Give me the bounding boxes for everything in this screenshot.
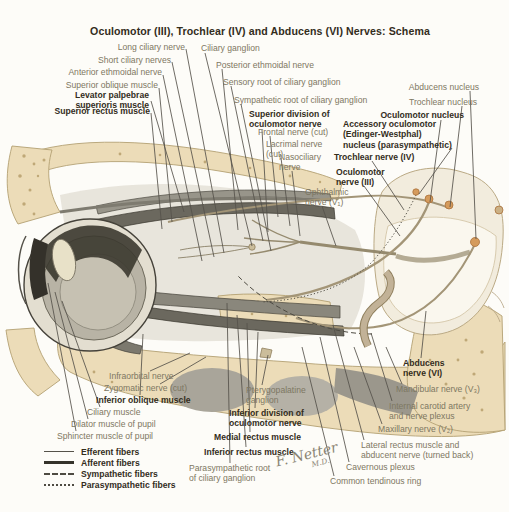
fiber-legend: Efferent fibers Afferent fibers Sympathe… — [44, 446, 176, 490]
label-lateral-rectus: Lateral rectus muscle and abducent nerve… — [361, 440, 473, 461]
label-infraorbital-nerve: Infraorbital nerve — [109, 371, 174, 381]
label-anterior-ethmoidal-nerve: Anterior ethmoidal nerve — [68, 67, 162, 77]
label-superior-rectus-muscle: Superior rectus muscle — [54, 106, 150, 116]
label-sympathetic-root: Sympathetic root of ciliary ganglion — [234, 95, 367, 105]
label-frontal-nerve: Frontal nerve (cut) — [258, 127, 328, 137]
legend-row-efferent: Efferent fibers — [44, 446, 176, 457]
sympathetic-line-swatch — [44, 473, 74, 475]
label-posterior-ethmoidal-nerve: Posterior ethmoidal nerve — [216, 60, 314, 70]
label-oculomotor-nerve: Oculomotor nerve (III) — [336, 167, 385, 188]
legend-label-efferent: Efferent fibers — [81, 447, 139, 457]
trochlear-nucleus-dot — [445, 201, 453, 209]
legend-label-afferent: Afferent fibers — [81, 458, 140, 468]
page-title: Oculomotor (III), Trochlear (IV) and Abd… — [30, 25, 490, 37]
label-abducens-nerve: Abducens nerve (VI) — [403, 358, 445, 379]
label-medial-rectus-muscle: Medial rectus muscle — [214, 432, 301, 442]
label-short-ciliary-nerves: Short ciliary nerves — [98, 55, 171, 65]
label-ophthalmic-nerve: Ophthalmic nerve (V₁) — [305, 187, 348, 208]
afferent-line-swatch — [44, 461, 74, 464]
oculomotor-nucleus-dot — [425, 195, 433, 203]
label-ciliary-muscle: Ciliary muscle — [87, 407, 140, 417]
legend-row-sympathetic: Sympathetic fibers — [44, 468, 176, 479]
legend-row-parasympathetic: Parasympathetic fibers — [44, 479, 176, 490]
label-superior-oblique-muscle: Superior oblique muscle — [66, 80, 158, 90]
label-long-ciliary-nerve: Long ciliary nerve — [118, 42, 185, 52]
label-maxillary-nerve: Maxillary nerve (V₂) — [378, 424, 453, 434]
parasympathetic-line-swatch — [44, 484, 74, 486]
label-sphincter-muscle: Sphincter muscle of pupil — [57, 431, 153, 441]
label-mandibular-nerve: Mandibular nerve (V₃) — [396, 384, 480, 394]
abducens-nucleus-dot — [471, 238, 480, 247]
mesencephalic-dot — [495, 206, 503, 214]
label-sensory-root: Sensory root of ciliary ganglion — [223, 77, 341, 87]
label-cavernous-plexus: Cavernous plexus — [346, 462, 415, 472]
label-trochlear-nerve: Trochlear nerve (IV) — [334, 152, 414, 162]
label-inferior-oblique-muscle: Inferior oblique muscle — [96, 395, 191, 405]
pterygopalatine-ganglion-blob — [260, 348, 272, 358]
label-accessory-oculomotor-nucleus: Accessory oculomotor (Edinger-Westphal) … — [343, 119, 452, 150]
label-trochlear-nucleus: Trochlear nucleus — [409, 97, 477, 107]
legend-label-sympathetic: Sympathetic fibers — [81, 469, 158, 479]
label-internal-carotid: Internal carotid artery and nerve plexus — [389, 401, 470, 422]
netter-plate: Oculomotor (III), Trochlear (IV) and Abd… — [0, 0, 509, 512]
legend-row-afferent: Afferent fibers — [44, 457, 176, 468]
efferent-line-swatch — [44, 451, 74, 452]
label-parasympathetic-root: Parasympathetic root of ciliary ganglion — [189, 463, 270, 484]
eyeball — [19, 219, 157, 351]
label-dilator-muscle: Dilator muscle of pupil — [71, 419, 156, 429]
label-pterygopalatine-ganglion: Pterygopalatine ganglion — [246, 385, 306, 406]
label-common-tendinous-ring: Common tendinous ring — [330, 476, 421, 486]
label-inferior-division: Inferior division of oculomotor nerve — [229, 408, 304, 429]
legend-label-parasympathetic: Parasympathetic fibers — [81, 480, 176, 490]
label-ciliary-ganglion: Ciliary ganglion — [201, 43, 260, 53]
label-zygomatic-nerve: Zygomatic nerve (cut) — [104, 383, 187, 393]
label-abducens-nucleus: Abducens nucleus — [409, 82, 479, 92]
label-nasociliary-nerve: Nasociliary nerve — [279, 152, 321, 173]
edinger-westphal-nucleus-dot — [413, 189, 419, 195]
